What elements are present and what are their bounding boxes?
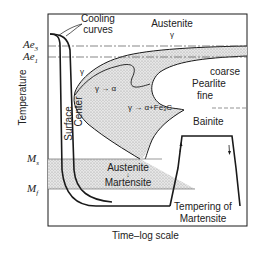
gamma-label: γ bbox=[80, 67, 84, 76]
austenite-martensite-label: Austenite ↓ Martensite bbox=[103, 163, 153, 187]
bainite-label: Bainite bbox=[193, 116, 224, 127]
fine-label: fine bbox=[197, 90, 213, 101]
x-axis-label: Time–log scale bbox=[112, 230, 179, 241]
coarse-label: coarse bbox=[210, 66, 240, 77]
y-axis-label: Temperature bbox=[17, 68, 28, 128]
ae1-tick-label: Ae1 bbox=[23, 50, 38, 65]
center-label: Center bbox=[73, 87, 84, 137]
gamma-to-alpha-fe3c-label: γ → α+Fe₃C bbox=[128, 103, 172, 112]
austenite-label: Austenite γ bbox=[150, 18, 194, 40]
gamma-to-alpha-label: γ → α bbox=[95, 84, 116, 93]
mf-tick-label: Mf bbox=[27, 182, 38, 197]
ms-tick-label: Ms bbox=[27, 152, 39, 167]
tempering-label: Tempering of Martensite bbox=[170, 201, 236, 225]
pearlite-label: Pearlite bbox=[192, 78, 226, 89]
cooling-curves-label: Cooling curves bbox=[81, 13, 115, 35]
